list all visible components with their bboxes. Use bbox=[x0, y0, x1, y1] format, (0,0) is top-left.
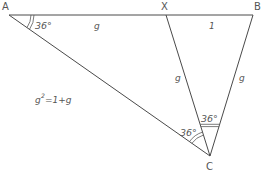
vertex-label-c: C bbox=[206, 161, 213, 171]
equation: g 2 =1+g bbox=[35, 92, 72, 105]
equation-rhs: =1+g bbox=[45, 95, 72, 105]
side-label-xc: g bbox=[175, 73, 181, 83]
edge-bc bbox=[210, 15, 253, 156]
side-label-xb: 1 bbox=[209, 21, 215, 31]
angle-label-a: 36° bbox=[35, 20, 52, 31]
golden-triangle-diagram: A X B C g 1 g g 36° 36° 36° g 2 =1+g bbox=[0, 0, 264, 171]
side-label-ax: g bbox=[94, 21, 100, 31]
angle-mark-c-right bbox=[200, 124, 220, 126]
angle-label-acx: 36° bbox=[180, 127, 197, 138]
angle-label-xcb: 36° bbox=[201, 113, 218, 124]
vertex-label-b: B bbox=[254, 1, 261, 12]
vertex-label-a: A bbox=[2, 1, 9, 12]
angle-mark-a bbox=[27, 15, 34, 29]
side-label-bc: g bbox=[239, 73, 245, 83]
vertex-label-x: X bbox=[161, 1, 168, 12]
